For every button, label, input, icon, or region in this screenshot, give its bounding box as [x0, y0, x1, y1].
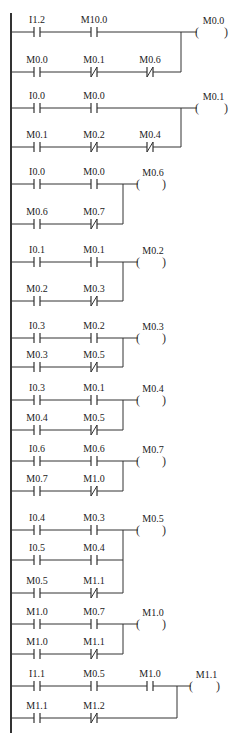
- contact-label: M0.7: [83, 607, 104, 617]
- contact-label: M0.3: [83, 513, 104, 523]
- contact-gap: [91, 529, 97, 531]
- contact-label: M0.7: [83, 207, 104, 217]
- contact-gap: [34, 529, 40, 531]
- coil-icon: ): [162, 393, 166, 407]
- contact-label: M0.5: [26, 576, 47, 586]
- contact-gap: [91, 107, 97, 109]
- coil-icon: (: [136, 617, 140, 631]
- contact-gap: [34, 337, 40, 339]
- coil-icon: (: [195, 101, 199, 115]
- contact-gap: [34, 490, 40, 492]
- contact-label: M0.3: [26, 350, 47, 360]
- contact-label: M0.6: [83, 444, 104, 454]
- coil-icon: (: [189, 679, 193, 693]
- contact-label: M0.2: [83, 321, 104, 331]
- coil-icon: ): [162, 331, 166, 345]
- contact-label: M0.0: [83, 167, 104, 177]
- contact-gap: [34, 31, 40, 33]
- contact-label: I0.0: [29, 91, 45, 101]
- coil-label: M1.1: [196, 670, 217, 680]
- contact-label: M1.1: [83, 637, 104, 647]
- contact-gap: [34, 300, 40, 302]
- contact-label: M0.1: [83, 383, 104, 393]
- contact-label: M1.2: [83, 701, 104, 711]
- coil-icon: (: [136, 331, 140, 345]
- contact-gap: [91, 337, 97, 339]
- contact-label: M0.2: [83, 130, 104, 140]
- contact-label: M10.0: [81, 15, 107, 25]
- contact-gap: [91, 399, 97, 401]
- contact-gap: [34, 653, 40, 655]
- contact-label: M0.5: [83, 413, 104, 423]
- contact-label: M0.5: [83, 350, 104, 360]
- coil-icon: (: [136, 393, 140, 407]
- contact-gap: [91, 623, 97, 625]
- contact-label: I0.5: [29, 543, 45, 553]
- contact-label: M0.4: [83, 543, 104, 553]
- coil-icon: (: [136, 177, 140, 191]
- coil-label: M0.6: [142, 168, 163, 178]
- contact-gap: [34, 261, 40, 263]
- coil-label: M0.2: [142, 246, 163, 256]
- contact-label: M0.1: [26, 130, 47, 140]
- coil-icon: ): [162, 454, 166, 468]
- contact-gap: [91, 559, 97, 561]
- contact-gap: [34, 559, 40, 561]
- coil-label: M0.4: [142, 384, 163, 394]
- coil-label: M0.5: [142, 514, 163, 524]
- contact-label: M1.0: [83, 474, 104, 484]
- contact-label: M0.0: [83, 91, 104, 101]
- coil-icon: ): [224, 101, 228, 115]
- contact-gap: [34, 460, 40, 462]
- contact-label: M1.1: [83, 576, 104, 586]
- contact-gap: [91, 31, 97, 33]
- coil-icon: ): [216, 679, 220, 693]
- contact-gap: [147, 685, 153, 687]
- coil-icon: ): [224, 25, 228, 39]
- contact-gap: [91, 183, 97, 185]
- contact-label: I1.1: [29, 669, 45, 679]
- coil-label: M0.0: [203, 16, 224, 26]
- contact-label: I0.0: [29, 167, 45, 177]
- contact-label: M0.1: [83, 55, 104, 65]
- contact-gap: [34, 429, 40, 431]
- coil-icon: ): [162, 255, 166, 269]
- contact-label: M1.0: [26, 607, 47, 617]
- coil-label: M0.1: [203, 92, 224, 102]
- coil-label: M0.7: [142, 445, 163, 455]
- coil-icon: ): [162, 617, 166, 631]
- coil-icon: ): [162, 177, 166, 191]
- contact-label: M0.7: [26, 474, 47, 484]
- contact-label: M0.6: [139, 55, 160, 65]
- contact-gap: [34, 685, 40, 687]
- contact-label: M0.4: [26, 413, 47, 423]
- contact-gap: [34, 71, 40, 73]
- contact-gap: [34, 623, 40, 625]
- contact-label: I1.2: [29, 15, 45, 25]
- coil-icon: ): [162, 523, 166, 537]
- contact-label: I0.1: [29, 245, 45, 255]
- contact-gap: [34, 399, 40, 401]
- ladder-canvas: ()()()()()()()()()(): [0, 0, 234, 742]
- contact-gap: [34, 183, 40, 185]
- contact-gap: [91, 460, 97, 462]
- contact-label: M1.1: [26, 701, 47, 711]
- contact-label: I0.3: [29, 321, 45, 331]
- contact-label: M0.5: [83, 669, 104, 679]
- contact-label: I0.4: [29, 513, 45, 523]
- contact-gap: [34, 107, 40, 109]
- contact-label: I0.3: [29, 383, 45, 393]
- contact-label: M1.0: [139, 669, 160, 679]
- contact-gap: [34, 146, 40, 148]
- contact-label: M0.2: [26, 284, 47, 294]
- contact-label: M0.3: [83, 284, 104, 294]
- coil-icon: (: [136, 454, 140, 468]
- contact-label: M0.1: [83, 245, 104, 255]
- contact-label: I0.6: [29, 444, 45, 454]
- contact-gap: [34, 223, 40, 225]
- contact-gap: [91, 685, 97, 687]
- contact-label: M0.0: [26, 55, 47, 65]
- contact-gap: [34, 717, 40, 719]
- contact-label: M0.4: [139, 130, 160, 140]
- contact-gap: [91, 261, 97, 263]
